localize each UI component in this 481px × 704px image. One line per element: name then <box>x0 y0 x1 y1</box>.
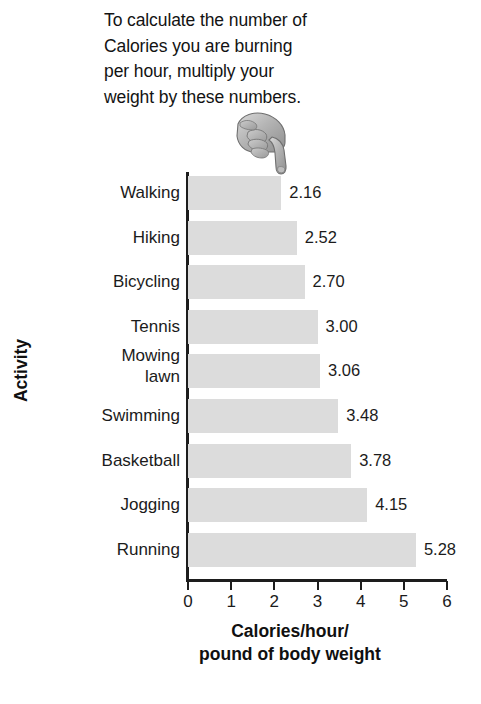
x-axis-title-line: Calories/hour/ <box>140 620 440 643</box>
x-tick <box>360 581 362 590</box>
x-tick <box>403 581 405 590</box>
bar-value-label: 5.28 <box>424 540 456 559</box>
bar-basketball <box>188 444 351 478</box>
x-tick-label: 4 <box>346 592 376 612</box>
x-tick-label: 5 <box>389 592 419 612</box>
x-tick <box>187 581 189 590</box>
chart-figure: To calculate the number of Calories you … <box>0 0 481 704</box>
bar-tennis <box>188 310 318 344</box>
category-label: Walking <box>0 182 180 203</box>
bar-mowing-lawn <box>188 354 320 388</box>
x-tick-label: 6 <box>432 592 462 612</box>
x-tick-label: 2 <box>259 592 289 612</box>
bar-value-label: 4.15 <box>375 495 407 514</box>
category-label: Running <box>0 539 180 560</box>
x-tick <box>230 581 232 590</box>
bar-bicycling <box>188 265 305 299</box>
bar-value-label: 3.78 <box>359 451 391 470</box>
category-label: Bicycling <box>0 271 180 292</box>
category-label: Jogging <box>0 494 180 515</box>
x-tick <box>446 581 448 590</box>
bar-value-label: 3.48 <box>346 406 378 425</box>
x-axis-title-line: pound of body weight <box>140 643 440 666</box>
bar-value-label: 3.00 <box>326 317 358 336</box>
bar-value-label: 3.06 <box>328 361 360 380</box>
x-tick-label: 1 <box>216 592 246 612</box>
y-axis-title: Activity <box>11 326 32 416</box>
x-axis-title: Calories/hour/ pound of body weight <box>140 620 440 666</box>
plot-area: Walking2.16Hiking2.52Bicycling2.70Tennis… <box>0 0 481 704</box>
category-label: Basketball <box>0 450 180 471</box>
bar-hiking <box>188 221 297 255</box>
x-tick-label: 0 <box>173 592 203 612</box>
bar-swimming <box>188 399 338 433</box>
bar-value-label: 2.16 <box>289 183 321 202</box>
bar-value-label: 2.52 <box>305 228 337 247</box>
x-tick <box>317 581 319 590</box>
x-tick-label: 3 <box>303 592 333 612</box>
bar-walking <box>188 176 281 210</box>
bar-jogging <box>188 488 367 522</box>
x-tick <box>273 581 275 590</box>
category-label: Hiking <box>0 227 180 248</box>
bar-running <box>188 533 416 567</box>
bar-value-label: 2.70 <box>313 272 345 291</box>
